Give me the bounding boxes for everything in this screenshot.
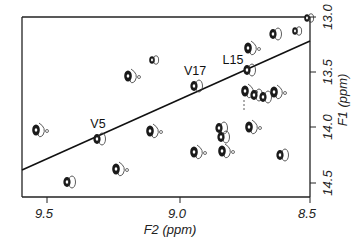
y-tick-label: 13.5 bbox=[320, 59, 335, 85]
peak bbox=[276, 149, 288, 161]
peak bbox=[217, 131, 229, 143]
peak bbox=[190, 145, 206, 159]
x-tick-label: 8.5 bbox=[298, 206, 317, 221]
peak bbox=[63, 176, 75, 188]
y-tick-label: 14.5 bbox=[320, 170, 335, 196]
peak bbox=[32, 123, 48, 137]
label-v17: V17 bbox=[184, 64, 206, 78]
peak bbox=[218, 144, 234, 158]
peak bbox=[292, 27, 301, 35]
peak bbox=[304, 14, 313, 22]
peak bbox=[259, 91, 271, 103]
peaks bbox=[32, 14, 313, 188]
peak bbox=[245, 120, 261, 134]
x-tick-label: 9.0 bbox=[168, 206, 187, 221]
peak bbox=[269, 28, 281, 40]
x-tick-label: 9.5 bbox=[35, 206, 54, 221]
y-tick-label: 14.0 bbox=[320, 114, 335, 140]
peak bbox=[149, 56, 158, 64]
y-axis: 13.0 13.5 14.0 14.5 F1 (ppm) bbox=[310, 4, 350, 196]
x-axis: 9.5 9.0 8.5 F2 (ppm) bbox=[35, 197, 317, 237]
peak bbox=[244, 41, 260, 55]
peak bbox=[124, 69, 140, 83]
plot-frame bbox=[22, 17, 310, 197]
peak bbox=[146, 124, 162, 138]
label-v5: V5 bbox=[90, 117, 105, 131]
x-axis-title: F2 (ppm) bbox=[144, 222, 197, 237]
nmr-spectrum-chart: 9.5 9.0 8.5 F2 (ppm) 13.0 13.5 14.0 14.5… bbox=[0, 0, 361, 242]
peak-v5 bbox=[93, 133, 105, 145]
label-l15: L15 bbox=[223, 53, 244, 67]
y-tick-label: 13.0 bbox=[320, 4, 335, 30]
diagonal-line bbox=[22, 41, 310, 170]
peak bbox=[270, 85, 286, 99]
y-axis-title: F1 (ppm) bbox=[335, 74, 350, 127]
peak bbox=[112, 162, 128, 176]
